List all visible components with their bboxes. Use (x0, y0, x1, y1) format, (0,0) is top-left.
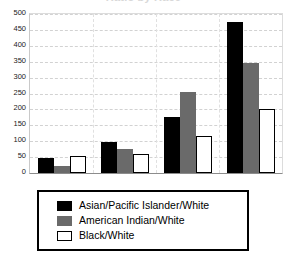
bar-groups (30, 14, 282, 173)
bar[interactable] (164, 117, 180, 173)
bar[interactable] (243, 63, 259, 173)
legend-label: Black/White (79, 230, 134, 241)
legend-swatch-icon (57, 216, 72, 226)
legend-swatch-icon (57, 201, 72, 211)
bar[interactable] (133, 154, 149, 173)
legend-item[interactable]: Asian/Pacific Islander/White (57, 198, 209, 213)
legend-label: American Indian/White (79, 215, 185, 226)
legend-swatch-icon (57, 231, 72, 241)
y-axis-tick-label: 450 (13, 25, 26, 33)
legend-item[interactable]: American Indian/White (57, 213, 209, 228)
legend-items: Asian/Pacific Islander/WhiteAmerican Ind… (57, 198, 209, 243)
y-axis-tick-label: 350 (13, 57, 26, 65)
bar[interactable] (54, 166, 70, 173)
chart-title-text: Ratio by Race (106, 0, 181, 3)
legend-item[interactable]: Black/White (57, 228, 209, 243)
bar-group (156, 14, 219, 173)
bar[interactable] (196, 136, 212, 173)
y-axis-tick-label: 500 (13, 9, 26, 17)
legend-label: Asian/Pacific Islander/White (79, 200, 209, 211)
y-axis-tick-label: 300 (13, 73, 26, 81)
y-axis-tick-label: 200 (13, 104, 26, 112)
y-axis-tick-label: 250 (13, 89, 26, 97)
bar-group (219, 14, 282, 173)
y-axis: 500450400350300250200150100500 (0, 9, 29, 181)
y-axis-tick-label: 150 (13, 120, 26, 128)
bar[interactable] (70, 156, 86, 173)
bar[interactable] (227, 22, 243, 173)
y-axis-tick-label: 0 (22, 168, 26, 176)
bar[interactable] (180, 92, 196, 173)
y-axis-tick-label: 100 (13, 136, 26, 144)
clipped-chart-title: Ratio by Race (0, 0, 287, 9)
gridline (30, 173, 282, 174)
y-axis-tick-label: 400 (13, 41, 26, 49)
y-axis-tick-label: 50 (18, 152, 26, 160)
bar[interactable] (117, 149, 133, 173)
bar[interactable] (259, 109, 275, 173)
plot-area (29, 13, 283, 174)
bar-chart: 500450400350300250200150100500 (0, 9, 287, 181)
bar-group (93, 14, 156, 173)
bar[interactable] (101, 142, 117, 173)
bar-group (30, 14, 93, 173)
chart-legend: Asian/Pacific Islander/WhiteAmerican Ind… (37, 190, 249, 251)
bar[interactable] (38, 158, 54, 173)
